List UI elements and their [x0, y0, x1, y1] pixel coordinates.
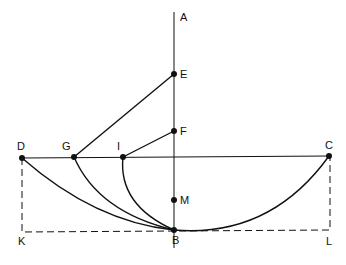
label-e: E — [180, 68, 187, 80]
label-d: D — [17, 140, 25, 152]
label-c: C — [325, 139, 333, 151]
point-m — [171, 197, 177, 203]
label-i: I — [117, 140, 120, 152]
label-l: L — [326, 235, 332, 247]
point-i — [120, 154, 126, 160]
label-k: K — [18, 235, 26, 247]
label-g: G — [62, 140, 71, 152]
segment-fi — [123, 131, 174, 157]
point-c — [326, 153, 332, 159]
point-e — [171, 71, 177, 77]
label-a: A — [180, 11, 188, 23]
label-b: B — [172, 234, 179, 246]
diagram-canvas: A E F M B D G I C K L — [0, 0, 346, 265]
curve-ib — [123, 157, 174, 230]
dashed-frame-dklc — [22, 156, 330, 232]
horizontal-line-dc — [22, 156, 329, 158]
point-g — [71, 154, 77, 160]
curve-db — [22, 158, 174, 230]
point-f — [171, 128, 177, 134]
label-m: M — [180, 194, 189, 206]
point-d — [19, 155, 25, 161]
curve-bc — [174, 156, 329, 231]
segment-eg — [74, 74, 174, 157]
point-b — [171, 227, 177, 233]
label-f: F — [180, 125, 187, 137]
